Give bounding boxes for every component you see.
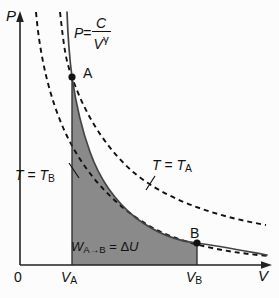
p-axis-arrowhead <box>16 11 24 22</box>
tick-vb-subscript: B <box>195 275 202 286</box>
work-equals: = <box>109 239 117 254</box>
isotherm-ta-subscript: A <box>185 163 192 174</box>
point-b-label: B <box>190 226 199 240</box>
tick-label-va: VA <box>61 270 77 287</box>
work-area-label: WA→B = ΔU <box>71 240 138 255</box>
pv-diagram-figure: P V 0 VA VB A B T = TA T = TB WA→B = ΔU … <box>0 0 279 298</box>
point-a-label: A <box>83 66 92 80</box>
equation-numerator: C <box>92 16 111 30</box>
adiabat-equation-label: P=CVγ <box>74 17 111 52</box>
equation-denominator: Vγ <box>92 33 111 51</box>
work-sub-to: B <box>99 244 105 255</box>
tick-vb-base: V <box>186 269 195 285</box>
work-arrow-icon: → <box>90 244 99 255</box>
isotherm-ta-equals: = <box>164 157 172 173</box>
equation-equals: = <box>83 25 91 41</box>
work-delta: Δ <box>120 239 129 254</box>
point-a-marker <box>68 73 75 80</box>
origin-label: 0 <box>14 270 22 284</box>
equation-fraction: CVγ <box>92 16 111 51</box>
isotherm-tb-t: T <box>15 167 24 183</box>
pv-diagram-canvas <box>0 0 279 298</box>
v-axis-label: V <box>258 268 268 283</box>
equation-denominator-base: V <box>94 36 103 52</box>
equation-denominator-exponent: γ <box>103 32 109 45</box>
isotherm-tb-curve <box>36 12 269 256</box>
tick-va-base: V <box>61 269 70 285</box>
isotherm-tb-equals: = <box>27 167 35 183</box>
isotherm-ta-t2: T <box>177 157 186 173</box>
isotherm-ta-label: T = TA <box>152 158 192 175</box>
isotherm-tb-label: T = TB <box>15 168 55 185</box>
isotherm-tb-subscript: B <box>48 173 55 184</box>
isotherm-tb-t2: T <box>40 167 49 183</box>
work-u: U <box>129 239 138 254</box>
work-w: W <box>71 239 83 254</box>
p-axis-label: P <box>6 8 16 23</box>
tick-label-vb: VB <box>186 270 202 287</box>
equation-lhs: P <box>74 25 83 41</box>
isotherm-ta-t: T <box>152 157 161 173</box>
tick-va-subscript: A <box>70 275 77 286</box>
